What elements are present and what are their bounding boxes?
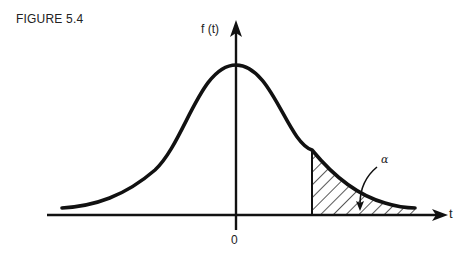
density-diagram xyxy=(0,0,469,253)
y-axis-label: f (t) xyxy=(201,22,219,36)
figure-canvas: FIGURE 5.4 xyxy=(0,0,469,253)
origin-label: 0 xyxy=(231,233,238,247)
y-axis xyxy=(230,20,242,230)
alpha-label: α xyxy=(381,153,388,166)
x-axis-label: t xyxy=(449,206,453,221)
